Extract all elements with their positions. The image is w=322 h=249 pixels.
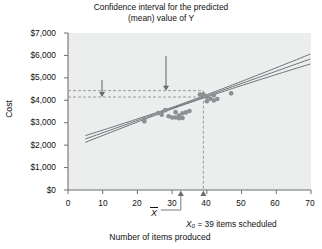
chart-figure — [0, 0, 322, 249]
y-axis-ticks — [64, 33, 68, 190]
x-axis-ticks — [68, 190, 311, 194]
x0-marker — [200, 191, 206, 197]
